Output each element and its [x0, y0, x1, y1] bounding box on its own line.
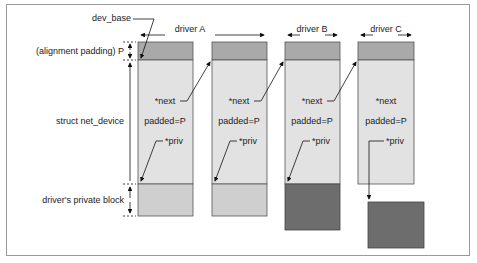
- driver-c-label: driver C: [370, 24, 402, 34]
- private-block-label: driver's private block: [42, 195, 124, 205]
- col4-priv: *priv: [386, 136, 405, 146]
- dimension-markers: [123, 42, 136, 216]
- dev-base-label: dev_base: [92, 13, 131, 23]
- driver-b-label: driver B: [296, 24, 327, 34]
- col4-padded: padded=P: [365, 116, 406, 126]
- net-device-diagram: driver A driver B driver C dev_base (ali…: [0, 0, 477, 263]
- driver-a-label: driver A: [175, 24, 206, 34]
- col1-priv: *priv: [165, 136, 184, 146]
- col2-padded: padded=P: [218, 116, 259, 126]
- col2-next: *next: [229, 96, 250, 106]
- struct-column-1: [138, 42, 193, 216]
- col2-priv: *priv: [239, 136, 258, 146]
- struct-column-2: [212, 42, 267, 216]
- alignment-padding-label: (alignment padding) P: [36, 46, 124, 56]
- col1-padded: padded=P: [144, 116, 185, 126]
- col1-next: *next: [155, 96, 176, 106]
- col4-next: *next: [376, 96, 397, 106]
- col3-priv: *priv: [312, 136, 331, 146]
- col3-next: *next: [302, 96, 323, 106]
- col3-padded: padded=P: [291, 116, 332, 126]
- struct-net-device-label: struct net_device: [56, 116, 124, 126]
